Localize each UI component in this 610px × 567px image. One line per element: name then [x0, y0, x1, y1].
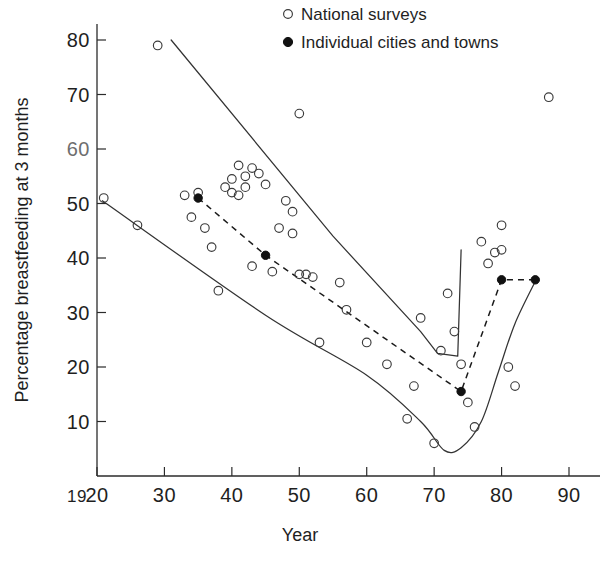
- y-tick-label: 10: [67, 411, 90, 433]
- data-point-open: [153, 41, 162, 50]
- data-point-filled: [194, 194, 202, 202]
- data-point-open: [403, 414, 412, 423]
- data-point-open: [241, 183, 250, 192]
- y-tick-label: 40: [67, 247, 90, 269]
- data-point-open: [214, 286, 223, 295]
- x-axis-tick-labels: 2030405060708090: [85, 484, 580, 506]
- data-point-open: [416, 314, 425, 323]
- data-point-open: [410, 382, 419, 391]
- data-point-filled: [261, 251, 269, 259]
- x-tick-label: 20: [85, 484, 108, 506]
- data-point-open: [295, 109, 304, 118]
- breastfeeding-scatter-chart: 1020304050607080 2030405060708090 19 Yea…: [0, 0, 610, 567]
- x-axis-prefix-label: 19: [67, 487, 87, 506]
- national-surveys-points: [99, 41, 553, 447]
- legend-entry-national-surveys: National surveys: [284, 5, 427, 24]
- data-point-open: [511, 382, 520, 391]
- y-tick-label: 80: [67, 29, 90, 51]
- envelope-curves: [102, 40, 536, 453]
- lower-envelope: [102, 201, 536, 453]
- data-point-open: [207, 243, 216, 252]
- data-point-open: [248, 262, 257, 271]
- data-point-open: [484, 259, 493, 268]
- data-point-open: [241, 172, 250, 181]
- legend-open-circle-icon: [284, 10, 293, 19]
- data-point-open: [457, 360, 466, 369]
- data-point-filled: [531, 276, 539, 284]
- legend-entry-individual-cities: Individual cities and towns: [283, 33, 498, 52]
- data-point-open: [450, 327, 459, 336]
- data-point-filled: [497, 276, 505, 284]
- data-point-open: [261, 180, 270, 189]
- x-axis-ticks: [97, 467, 569, 476]
- y-axis-ticks: [97, 40, 106, 422]
- y-tick-label: 60: [67, 138, 90, 160]
- chart-legend: National surveys Individual cities and t…: [283, 5, 498, 52]
- y-axis-title: Percentage breastfeeding at 3 months: [12, 97, 32, 402]
- data-point-open: [228, 175, 237, 184]
- legend-label-individual-cities: Individual cities and towns: [301, 33, 499, 52]
- x-tick-label: 30: [153, 484, 176, 506]
- data-point-open: [288, 207, 297, 216]
- data-point-open: [234, 161, 243, 170]
- data-point-open: [282, 196, 291, 205]
- x-tick-label: 80: [490, 484, 513, 506]
- x-tick-label: 50: [288, 484, 311, 506]
- data-point-open: [504, 363, 513, 372]
- data-point-open: [180, 191, 189, 200]
- individual-cities-dashed-path: [198, 198, 535, 391]
- y-tick-label: 20: [67, 356, 90, 378]
- data-point-open: [470, 423, 479, 432]
- data-point-open: [464, 398, 473, 407]
- individual-cities-points: [194, 194, 540, 396]
- data-point-open: [275, 224, 284, 233]
- data-point-open: [362, 338, 371, 347]
- x-tick-label: 90: [557, 484, 580, 506]
- data-point-open: [288, 229, 297, 238]
- y-tick-label: 30: [67, 302, 90, 324]
- data-point-open: [443, 289, 452, 298]
- upper-envelope: [171, 40, 461, 356]
- y-tick-label: 70: [67, 84, 90, 106]
- data-point-open: [342, 305, 351, 314]
- data-point-open: [383, 360, 392, 369]
- x-tick-label: 60: [355, 484, 378, 506]
- legend-filled-circle-icon: [283, 37, 292, 46]
- data-point-open: [477, 237, 486, 246]
- x-tick-label: 70: [423, 484, 446, 506]
- y-axis-tick-labels: 1020304050607080: [67, 29, 90, 433]
- individual-cities-trend-line: [198, 198, 535, 391]
- data-point-open: [497, 221, 506, 230]
- chart-figure: 1020304050607080 2030405060708090 19 Yea…: [0, 0, 610, 567]
- data-point-open: [335, 278, 344, 287]
- x-axis-title: Year: [282, 525, 318, 545]
- legend-label-national-surveys: National surveys: [301, 5, 427, 24]
- data-point-open: [201, 224, 210, 233]
- data-point-open: [544, 93, 553, 102]
- x-tick-label: 40: [220, 484, 243, 506]
- y-tick-label: 50: [67, 193, 90, 215]
- data-point-open: [187, 213, 196, 222]
- data-point-filled: [457, 387, 465, 395]
- data-point-open: [315, 338, 324, 347]
- data-point-open: [255, 169, 264, 178]
- data-point-open: [268, 267, 277, 276]
